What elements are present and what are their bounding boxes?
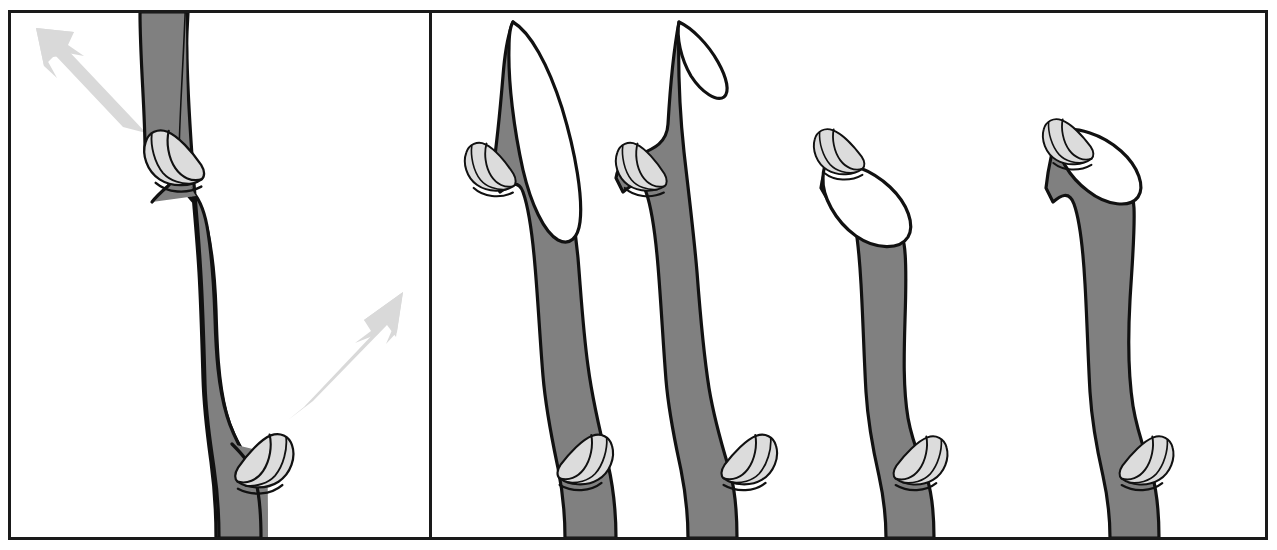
diagram-canvas	[0, 0, 1277, 550]
pruning-diagram-figure: Pruning cut positions relative to a bud …	[0, 0, 1277, 550]
